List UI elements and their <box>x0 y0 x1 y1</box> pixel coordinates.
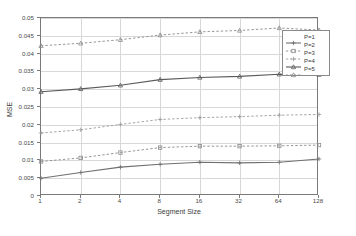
data-point-marker <box>277 113 281 117</box>
y-tick-label: 0 <box>31 192 34 199</box>
x-tick-label: 16 <box>195 197 202 204</box>
x-tick-label: 4 <box>118 197 121 204</box>
legend-line-sample <box>285 57 302 65</box>
data-point-marker <box>79 170 83 174</box>
legend-line-sample <box>285 41 302 49</box>
y-tick-label: 0.04 <box>22 49 34 56</box>
x-tick-label: 1 <box>38 197 41 204</box>
data-point-marker <box>198 160 202 164</box>
x-tick-label: 8 <box>157 197 160 204</box>
y-tick-label: 0.01 <box>22 156 34 163</box>
data-point-marker <box>277 160 281 164</box>
legend-item-p2[interactable]: P=2 <box>285 41 327 49</box>
data-point-marker <box>79 128 83 132</box>
y-tick-label: 0.025 <box>19 103 34 110</box>
data-point-marker <box>118 165 122 169</box>
y-tick-label: 0.02 <box>22 120 34 127</box>
y-tick-label: 0.045 <box>19 31 34 38</box>
legend-item-p4[interactable]: P=4 <box>285 57 327 65</box>
legend-label: P=5 <box>304 66 315 72</box>
legend-label: P=4 <box>304 58 315 64</box>
data-point-marker <box>118 122 122 126</box>
chart-figure: MSE Segment Size 00.0050.010.0150.020.02… <box>0 0 356 236</box>
legend-item-p3[interactable]: P=3 <box>285 49 327 57</box>
y-axis-label: MSE <box>6 90 13 130</box>
y-tick-label: 0.035 <box>19 67 34 74</box>
x-tick-label: 32 <box>235 197 242 204</box>
data-point-marker <box>317 157 321 161</box>
x-tick-label: 128 <box>313 197 323 204</box>
legend-item-p1[interactable]: P=1 <box>285 33 327 41</box>
series-line-p5 <box>41 28 319 46</box>
legend-line-sample <box>285 65 302 73</box>
data-point-marker <box>291 73 295 77</box>
data-point-marker <box>198 115 202 119</box>
data-point-marker <box>237 161 241 165</box>
legend-label: P=3 <box>304 50 315 56</box>
y-tick-label: 0.05 <box>22 14 34 21</box>
x-axis-label: Segment Size <box>40 208 318 215</box>
data-point-marker <box>237 114 241 118</box>
data-point-marker <box>317 112 321 116</box>
x-tick-label: 2 <box>78 197 81 204</box>
legend-line-sample <box>285 33 302 41</box>
x-tick-label: 64 <box>275 197 282 204</box>
plot-area <box>40 17 318 195</box>
y-tick-label: 0.015 <box>19 138 34 145</box>
chart-legend[interactable]: P=1P=2P=3P=4P=5 <box>282 30 330 76</box>
data-point-marker <box>39 131 43 135</box>
series-line-p3 <box>41 114 319 133</box>
data-point-marker <box>158 117 162 121</box>
data-point-marker <box>39 176 43 180</box>
data-series-layer <box>41 18 319 196</box>
legend-line-sample <box>285 49 302 57</box>
legend-label: P=2 <box>304 42 315 48</box>
data-point-marker <box>158 162 162 166</box>
series-line-p4 <box>41 74 319 91</box>
y-tick-label: 0.03 <box>22 85 34 92</box>
y-tick-label: 0.005 <box>19 174 34 181</box>
legend-item-p5[interactable]: P=5 <box>285 65 327 73</box>
legend-label: P=1 <box>304 34 315 40</box>
